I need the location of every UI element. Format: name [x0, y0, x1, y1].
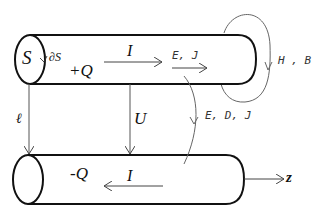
positive-charge-label: +Q [69, 62, 93, 79]
curve-arrowhead-icon [190, 117, 198, 124]
cross-section-label: S [22, 48, 32, 67]
electric-field-label: E, D, J [205, 110, 251, 121]
negative-charge-label: -Q [70, 165, 88, 182]
field-ej-label: E, J [172, 50, 199, 61]
bottom-current-label: I [127, 168, 132, 184]
electric-field-curve [184, 76, 196, 164]
boundary-label: ∂S [49, 51, 61, 63]
transmission-line-diagram [0, 0, 319, 209]
z-axis-label: z [286, 170, 292, 185]
loop-arrowhead-icon [265, 62, 272, 70]
magnetic-field-label: H , B [278, 55, 311, 66]
length-label: ℓ [16, 112, 22, 126]
top-current-label: I [127, 43, 132, 59]
voltage-label: U [134, 110, 146, 127]
